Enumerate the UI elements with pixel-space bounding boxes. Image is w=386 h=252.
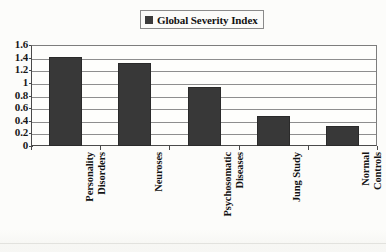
bar <box>49 57 82 146</box>
x-category-label: Jung Study <box>291 152 331 248</box>
x-tick-mark <box>377 146 378 150</box>
y-tick-label: 1.6 <box>0 39 28 50</box>
x-tick-mark <box>308 146 309 150</box>
x-tick-mark <box>239 146 240 150</box>
gridline <box>32 84 376 85</box>
x-tick-mark <box>169 146 170 150</box>
x-category-label: Personality Disorders <box>84 152 124 248</box>
y-tick-label: 0.6 <box>0 102 28 113</box>
legend-swatch-icon <box>145 16 153 24</box>
bar-chart-figure: Global Severity Index 1.61.41.210.80.60.… <box>0 0 386 252</box>
y-tick-label: 1.2 <box>0 64 28 75</box>
x-tick-mark <box>31 146 32 150</box>
x-category-label: Neuroses <box>153 152 193 248</box>
y-tick-label: 0.4 <box>0 115 28 126</box>
chart-legend: Global Severity Index <box>140 10 264 29</box>
y-tick-label: 1.4 <box>0 52 28 63</box>
x-category-label: Normal Controls <box>360 152 386 248</box>
scan-artifact-line <box>0 243 386 244</box>
gridline <box>32 71 376 72</box>
y-tick-label: 0.8 <box>0 90 28 101</box>
y-axis: 1.61.41.210.80.60.40.20 <box>0 39 28 153</box>
bar <box>188 87 221 146</box>
x-category-label: Psychosomatic Diseases <box>222 152 262 248</box>
bar <box>326 126 359 146</box>
y-tick-label: 1 <box>0 77 28 88</box>
legend-label: Global Severity Index <box>157 14 258 26</box>
bar <box>257 116 290 146</box>
y-tick-label: 0 <box>0 140 28 151</box>
bar <box>118 63 151 146</box>
gridline <box>32 59 376 60</box>
x-tick-mark <box>100 146 101 150</box>
y-tick-label: 0.2 <box>0 127 28 138</box>
